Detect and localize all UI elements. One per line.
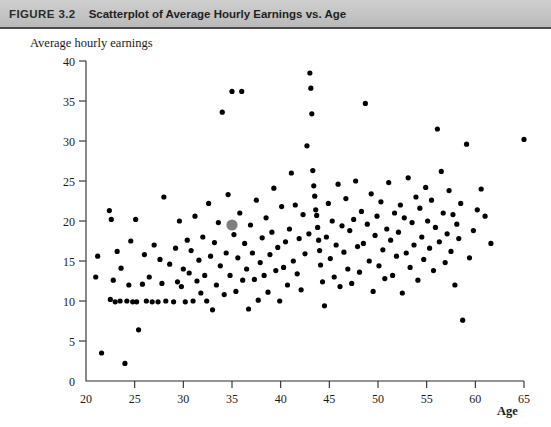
data-point — [179, 284, 184, 289]
data-point — [337, 284, 342, 289]
data-point — [427, 246, 432, 251]
data-point — [394, 254, 399, 259]
data-point — [222, 292, 227, 297]
data-point — [204, 298, 209, 303]
data-point — [311, 183, 316, 188]
data-point — [187, 270, 192, 275]
data-point — [404, 250, 409, 255]
data-point — [239, 89, 244, 94]
data-point — [415, 278, 420, 283]
data-point — [287, 226, 292, 231]
data-point — [341, 250, 346, 255]
data-point — [242, 241, 247, 246]
data-point — [460, 318, 465, 323]
data-point — [313, 207, 318, 212]
data-point — [363, 101, 368, 106]
tick-label: 35 — [226, 392, 238, 406]
data-point — [339, 223, 344, 228]
data-point — [308, 86, 313, 91]
data-point — [312, 194, 317, 199]
data-point — [244, 266, 249, 271]
data-point — [318, 262, 323, 267]
data-point — [309, 111, 314, 116]
data-point — [283, 239, 288, 244]
data-point — [398, 202, 403, 207]
data-point — [189, 248, 194, 253]
data-point — [471, 228, 476, 233]
data-point — [349, 281, 354, 286]
data-point — [190, 298, 195, 303]
data-point — [464, 142, 469, 147]
data-point — [237, 210, 242, 215]
data-point — [177, 218, 182, 223]
data-point — [372, 233, 377, 238]
data-point — [267, 252, 272, 257]
data-point — [152, 242, 157, 247]
data-point — [254, 198, 259, 203]
data-point — [304, 143, 309, 148]
data-point — [421, 257, 426, 262]
data-point — [482, 214, 487, 219]
data-point — [413, 194, 418, 199]
data-point — [361, 241, 366, 246]
data-point — [369, 191, 374, 196]
data-point — [446, 188, 451, 193]
tick-label: 0 — [69, 375, 75, 389]
data-point — [275, 245, 280, 250]
tick-label: 65 — [518, 392, 530, 406]
data-point — [300, 212, 305, 217]
data-point — [246, 306, 251, 311]
data-point — [433, 225, 438, 230]
data-point — [429, 198, 434, 203]
data-point — [431, 268, 436, 273]
data-point — [252, 277, 257, 282]
data-point — [289, 170, 294, 175]
tick-label: 40 — [275, 392, 287, 406]
data-point — [159, 281, 164, 286]
data-point — [192, 214, 197, 219]
data-point — [343, 196, 348, 201]
data-point — [128, 238, 133, 243]
data-point — [406, 175, 411, 180]
data-point — [218, 263, 223, 268]
data-point — [458, 201, 463, 206]
data-point — [306, 231, 311, 236]
data-point — [302, 251, 307, 256]
data-point — [210, 307, 215, 312]
data-point — [185, 238, 190, 243]
data-point — [353, 178, 358, 183]
data-point — [384, 226, 389, 231]
data-point — [99, 350, 104, 355]
data-point — [443, 260, 448, 265]
data-point — [285, 282, 290, 287]
tick-label: 35 — [63, 95, 75, 109]
data-point — [140, 282, 145, 287]
data-point — [425, 218, 430, 223]
data-point — [157, 257, 162, 262]
data-point — [299, 287, 304, 292]
data-point — [409, 220, 414, 225]
data-point — [216, 220, 221, 225]
data-point — [212, 240, 217, 245]
data-point — [402, 215, 407, 220]
data-point — [263, 215, 268, 220]
data-point — [109, 217, 114, 222]
data-point — [229, 89, 234, 94]
data-point — [322, 303, 327, 308]
data-point — [194, 278, 199, 283]
data-point — [445, 231, 450, 236]
data-point — [231, 232, 236, 237]
data-point — [220, 110, 225, 115]
tick-label: 30 — [63, 135, 75, 149]
data-point — [317, 248, 322, 253]
data-point — [173, 246, 178, 251]
data-point — [390, 273, 395, 278]
data-point — [262, 273, 267, 278]
tick-label: 40 — [63, 55, 75, 69]
data-point — [380, 247, 385, 252]
data-point — [265, 290, 270, 295]
data-point — [202, 273, 207, 278]
data-point — [396, 230, 401, 235]
data-point — [93, 274, 98, 279]
data-point — [113, 299, 118, 304]
